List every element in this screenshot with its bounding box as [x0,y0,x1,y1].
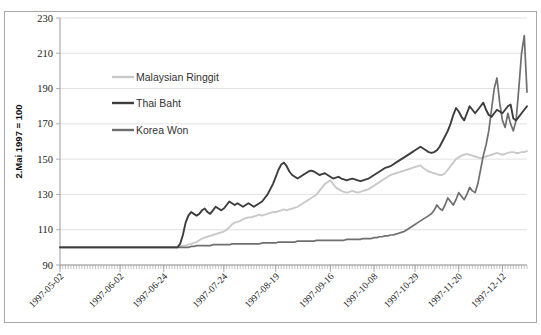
y-tick-labels-group: 90110130150170190210230 [37,13,53,271]
legend-label-thai-baht: Thai Baht [136,97,181,109]
y-tick-label: 150 [37,154,53,165]
x-tick-labels-group: 1997-05-021997-06-021997-06-241997-07-24… [27,271,508,310]
x-tick-label: 1997-12-12 [469,271,508,310]
y-tick-label: 90 [43,260,54,271]
x-tick-label: 1997-09-16 [297,271,336,310]
x-tick-label: 1997-08-19 [243,271,282,310]
x-tick-label: 1997-11-20 [426,271,464,309]
x-tick-label: 1997-10-08 [341,271,380,310]
x-tick-label: 1997-06-24 [131,271,170,310]
line-chart: 90110130150170190210230 1997-05-021997-0… [0,0,541,335]
plot-background [60,18,527,265]
y-axis-title: 2.Mai 1997 = 100 [13,104,24,178]
y-tick-label: 170 [37,118,53,129]
chart-figure: 90110130150170190210230 1997-05-021997-0… [0,0,541,335]
x-tick-label: 1997-06-02 [87,271,126,310]
x-tick-label: 1997-05-02 [27,271,66,310]
y-tick-label: 110 [38,224,53,235]
y-tick-label: 230 [37,13,53,24]
y-tick-label: 210 [37,48,53,59]
legend-label-korea-won: Korea Won [136,124,188,136]
y-axis-title-group: 2.Mai 1997 = 100 [13,104,24,178]
y-tick-label: 190 [37,83,53,94]
gridlines-group [60,18,527,265]
x-tick-label: 1997-07-24 [191,271,230,310]
legend-label-malaysian-ringgit: Malaysian Ringgit [136,71,219,83]
x-tick-label: 1997-10-29 [382,271,421,310]
y-tick-label: 130 [37,189,53,200]
